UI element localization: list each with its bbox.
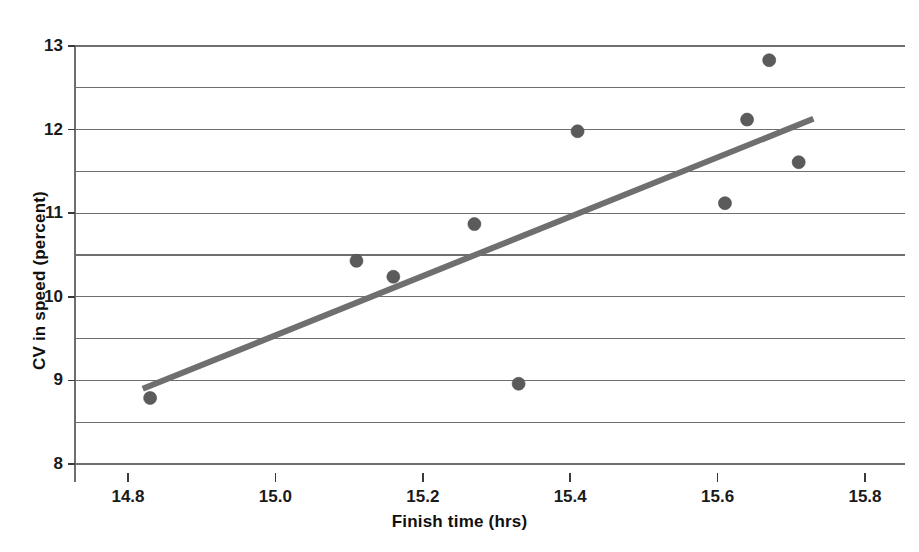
x-tick-label-14.8: 14.8 (88, 488, 168, 505)
data-points (144, 54, 806, 405)
trend-line (143, 119, 814, 389)
x-tick-label-15.4: 15.4 (530, 488, 610, 505)
data-point (792, 156, 805, 169)
x-axis-ticks (128, 473, 865, 482)
minor-gridlines (75, 88, 905, 422)
y-tick-label-12: 12 (13, 121, 63, 138)
y-tick-label-9: 9 (13, 371, 63, 388)
data-point (350, 254, 363, 267)
data-point (763, 54, 776, 67)
x-tick-label-15.6: 15.6 (678, 488, 758, 505)
data-point (741, 113, 754, 126)
y-tick-label-8: 8 (13, 455, 63, 472)
x-tick-label-15.2: 15.2 (383, 488, 463, 505)
y-axis-title: CV in speed (percent) (30, 191, 50, 370)
data-point (512, 377, 525, 390)
x-axis-title: Finish time (hrs) (0, 512, 919, 532)
plot-area (0, 0, 919, 552)
x-tick-label-15.8: 15.8 (825, 488, 905, 505)
data-point (144, 391, 157, 404)
data-point (571, 125, 584, 138)
y-axis-ticks (68, 46, 75, 464)
data-point (718, 197, 731, 210)
data-point (387, 270, 400, 283)
trend-line-segment (143, 119, 814, 389)
data-point (468, 218, 481, 231)
scatter-chart: 8910111213 14.815.015.215.415.615.8 Fini… (0, 0, 919, 552)
x-tick-label-15.0: 15.0 (235, 488, 315, 505)
y-tick-label-13: 13 (13, 37, 63, 54)
